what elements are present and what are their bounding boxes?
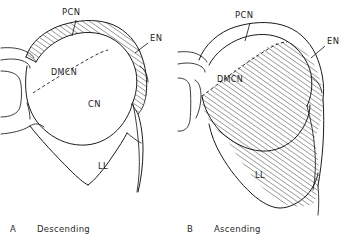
label-cn-a: CN bbox=[88, 99, 101, 109]
ll-left-edge-a bbox=[30, 126, 88, 185]
ll-right-edge-a bbox=[88, 133, 127, 185]
cn-core-outline-a bbox=[26, 66, 133, 145]
caption-panel-b: BAscending bbox=[177, 224, 261, 234]
brainstem-upper-line-b bbox=[178, 52, 207, 62]
pcn-leader-b bbox=[245, 23, 250, 41]
label-pcn-a: PCN bbox=[62, 7, 80, 17]
lower-surface-line-a bbox=[1, 124, 44, 134]
caption-letter-a: A bbox=[10, 224, 20, 234]
label-en-b: EN bbox=[327, 36, 339, 46]
panel-b-ascending: PCN EN DMCN LL bbox=[177, 0, 354, 247]
panel-a-drawing: PCN EN DMCN CN LL bbox=[0, 0, 177, 247]
label-pcn-b: PCN bbox=[235, 10, 253, 20]
caption-text-b: Ascending bbox=[214, 224, 261, 234]
descending-tail-b bbox=[318, 186, 319, 215]
figure-root: PCN EN DMCN CN LL bbox=[0, 0, 354, 247]
label-dmcn-b: DMCN bbox=[217, 75, 243, 84]
caption-letter-b: B bbox=[187, 224, 197, 234]
brainstem-upper-line2-b bbox=[178, 63, 205, 72]
label-ll-a: LL bbox=[98, 161, 108, 171]
ll-right-tail-a bbox=[127, 133, 141, 143]
panel-a-descending: PCN EN DMCN CN LL bbox=[0, 0, 177, 247]
caption-panel-a: ADescending bbox=[10, 224, 90, 234]
label-en-a: EN bbox=[150, 33, 162, 43]
ventricle-hook-inner-b bbox=[195, 80, 201, 118]
caption-text-a: Descending bbox=[37, 224, 90, 234]
panel-b-drawing: PCN EN DMCN LL bbox=[177, 0, 354, 247]
brainstem-upper-line2-a bbox=[1, 59, 30, 68]
en-leader-b bbox=[311, 46, 325, 58]
ventricle-hook-b bbox=[178, 78, 191, 131]
ventricle-bracket-a bbox=[1, 71, 22, 117]
label-dmcn-a: DMCN bbox=[51, 68, 77, 77]
label-ll-b: LL bbox=[255, 170, 265, 180]
lateral-inner-outline-a bbox=[133, 104, 139, 192]
